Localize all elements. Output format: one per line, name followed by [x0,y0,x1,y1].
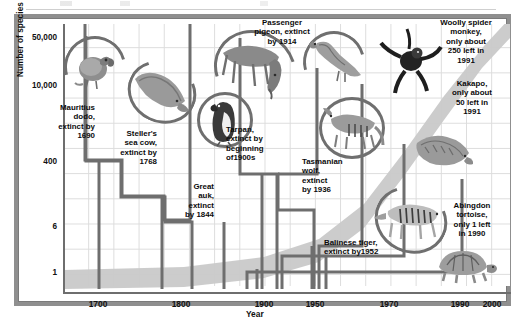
callout-stellers-sea-cow: Steller's sea cow, extinct by 1768 [75,129,157,167]
sea-cow-illustration [127,61,197,123]
callout-passenger-pigeon: Passenger pigeon, extinct by 1914 [237,18,327,46]
y-tick-6: 6 [17,222,57,231]
kakapo-illustration [411,127,477,179]
tasmanian-wolf-illustration [319,97,385,159]
dodo-illustration [64,36,126,98]
medallion-kakapo [411,127,477,179]
y-tick-400: 400 [17,157,57,166]
x-tick-1800: 1800 [161,299,201,309]
callout-abingdon-tortoise: Abingdon tortoise, only 1 left in 1990 [436,201,508,239]
figure-inner-border: Number of species that become extinct ea… [18,18,507,302]
medallion-mauritius-dodo [64,36,126,98]
callout-woolly-spider-monkey: Woolly spider monkey, only about 250 lef… [423,18,509,65]
callout-tarpan: Tarpan, extinct by beginning of1900s [226,125,288,163]
x-tick-1970: 1970 [369,299,409,309]
page-top-sliver [0,0,519,13]
horizontal-rule [26,9,496,10]
callout-great-auk: Great auk, extinct by 1844 [158,182,214,220]
abingdon-tortoise-illustration [427,241,499,289]
y-tick-10000: 10,000 [17,81,57,90]
callout-balinese-tiger: Balinese tiger, extinct by1952 [324,238,424,257]
callout-tasmanian-wolf: Tasmanian wolf, extinct by 1936 [302,157,364,195]
x-tick-2000: 2000 [472,299,512,309]
x-axis-line [63,292,511,294]
figure-frame: Number of species that become extinct ea… [14,14,511,306]
callout-kakapo: Kakapo, only about 50 left in 1991 [436,79,508,117]
x-tick-1950: 1950 [295,299,335,309]
y-tick-50000: 50,000 [17,33,57,42]
x-axis-title: Year [246,309,264,319]
medallion-abingdon-tortoise [427,241,499,289]
x-tick-1900: 1900 [244,299,284,309]
y-tick-1: 1 [17,268,57,277]
cropped-text-sliver [60,1,440,6]
x-tick-1700: 1700 [78,299,118,309]
medallion-stellers-sea-cow [127,61,197,123]
medallion-tasmanian-wolf [319,97,385,159]
